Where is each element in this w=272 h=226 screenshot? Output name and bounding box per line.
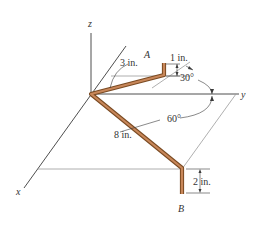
- x-axis: [24, 46, 126, 188]
- arrow-icon: [176, 72, 179, 76]
- angle-60-label: 60°: [167, 113, 181, 124]
- y-axis-label: y: [240, 89, 246, 100]
- x-axis-label: x: [15, 186, 21, 197]
- arrow-icon: [199, 169, 202, 173]
- arrow-icon: [210, 96, 214, 101]
- angle-60-arc: [180, 96, 212, 118]
- point-b-label: B: [178, 203, 184, 214]
- dimension-8in-label: 8 in.: [114, 129, 132, 140]
- dimension-2in-label: 2 in.: [193, 176, 211, 187]
- arrow-icon: [210, 89, 214, 94]
- bent-rod-diagram: z y x A B 3 in. 1 in. 8 in. 2 in. 30° 60…: [0, 0, 272, 226]
- arrow-icon: [176, 64, 179, 68]
- point-a-label: A: [143, 49, 151, 60]
- arrow-icon: [199, 189, 202, 193]
- angle-30-arc: [198, 80, 212, 94]
- angle-30-label: 30°: [180, 72, 194, 83]
- dimension-3in-label: 3 in.: [120, 57, 138, 68]
- dimension-1in-label: 1 in.: [170, 52, 188, 63]
- arrow-icon: [188, 66, 193, 70]
- z-axis-label: z: [87, 18, 92, 29]
